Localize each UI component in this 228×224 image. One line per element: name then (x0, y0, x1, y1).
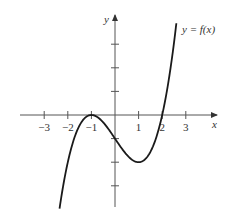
x-axis-label: x (211, 118, 217, 130)
graph-figure: −3−2−1123 x y y = f(x) (0, 0, 228, 224)
x-tick-label: −3 (38, 121, 50, 133)
x-tick-label: −1 (86, 121, 98, 133)
x-tick-label: −2 (62, 121, 74, 133)
function-plot: −3−2−1123 x y y = f(x) (0, 0, 228, 224)
y-axis-label: y (103, 13, 109, 25)
x-tick-label: 1 (136, 121, 142, 133)
x-axis-ticks: −3−2−1123 (38, 111, 189, 133)
x-tick-label: 3 (183, 121, 189, 133)
function-curve (60, 23, 177, 208)
function-label: y = f(x) (181, 23, 215, 36)
